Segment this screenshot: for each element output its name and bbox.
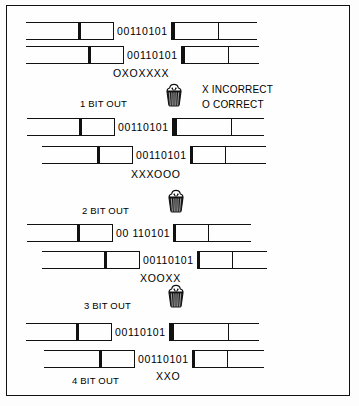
- pattern-text: OXOXXXX: [113, 67, 169, 79]
- pattern-text: XXO: [156, 370, 180, 382]
- row-right-cells: [169, 323, 229, 341]
- row-right-cells: [197, 251, 233, 269]
- row-right-tail: [226, 146, 266, 164]
- row-right-cells: [173, 224, 209, 242]
- register-cell: [90, 47, 91, 63]
- row-left-tail: [26, 22, 78, 40]
- row-code-text: 00110101: [114, 22, 171, 40]
- row-left-cells: [99, 350, 135, 368]
- row-code-text: 00110101: [115, 118, 172, 136]
- cupcake-icon: [163, 283, 189, 309]
- row-left-cells: [104, 251, 140, 269]
- row-right-tail: [219, 22, 257, 40]
- bit-row: 00 110101: [27, 224, 251, 242]
- register-cell: [80, 23, 81, 39]
- register-cell: [194, 351, 195, 367]
- pattern-text: XXXOOO: [131, 168, 181, 180]
- bit-row: 00110101: [42, 146, 266, 164]
- figure-canvas: 00110101 00110101 OXOXXXX X INCORRECT O …: [0, 0, 359, 406]
- row-code-text: 00 110101: [113, 224, 173, 242]
- cupcake-icon: [163, 188, 189, 214]
- row-code-text: 00110101: [112, 323, 169, 341]
- bit-out-label: 1 BIT OUT: [80, 98, 127, 109]
- bit-row: 00110101: [42, 251, 267, 269]
- legend-incorrect: X INCORRECT: [202, 84, 273, 95]
- row-right-tail: [232, 118, 264, 136]
- row-right-cells: [192, 350, 228, 368]
- bit-row: 00110101: [26, 46, 259, 64]
- row-right-tail: [229, 46, 259, 64]
- row-right-cells: [190, 146, 226, 164]
- register-cell: [99, 147, 100, 163]
- register-cell: [106, 252, 107, 268]
- row-left-cells: [76, 323, 112, 341]
- legend-correct: O CORRECT: [202, 99, 264, 110]
- row-right-tail: [228, 350, 264, 368]
- register-cell: [173, 324, 174, 340]
- row-right-cells: [172, 118, 232, 136]
- row-right-tail: [233, 251, 267, 269]
- row-code-text: 00110101: [133, 146, 190, 164]
- cupcake-icon: [161, 82, 187, 108]
- bit-row: 00110101: [44, 350, 264, 368]
- bit-out-label: 2 BIT OUT: [82, 205, 129, 216]
- row-code-text: 00110101: [135, 350, 192, 368]
- row-left-cells: [79, 118, 115, 136]
- register-cell: [78, 324, 79, 340]
- bit-row: 00110101: [26, 323, 259, 341]
- register-cell: [101, 351, 102, 367]
- row-left-tail: [26, 323, 76, 341]
- register-cell: [175, 225, 176, 241]
- row-code-text: 00110101: [140, 251, 197, 269]
- row-left-tail: [27, 224, 77, 242]
- register-cell: [81, 119, 82, 135]
- register-cell: [79, 225, 80, 241]
- bit-row: 00110101: [27, 118, 264, 136]
- bit-out-label: 3 BIT OUT: [84, 300, 131, 311]
- row-right-tail: [209, 224, 251, 242]
- row-code-text: 00110101: [124, 46, 181, 64]
- register-cell: [184, 47, 185, 63]
- row-left-cells: [88, 46, 124, 64]
- register-cell: [192, 147, 193, 163]
- register-cell: [199, 252, 200, 268]
- bit-row: 00110101: [26, 22, 257, 40]
- row-right-tail: [229, 323, 259, 341]
- row-right-cells: [171, 22, 219, 40]
- row-left-tail: [44, 350, 99, 368]
- row-left-tail: [42, 251, 104, 269]
- row-right-cells: [181, 46, 229, 64]
- register-cell: [176, 119, 177, 135]
- row-left-tail: [42, 146, 97, 164]
- register-cell: [174, 23, 175, 39]
- row-left-tail: [27, 118, 79, 136]
- row-left-cells: [78, 22, 114, 40]
- row-left-cells: [97, 146, 133, 164]
- row-left-cells: [77, 224, 113, 242]
- row-left-tail: [26, 46, 88, 64]
- bit-out-label: 4 BIT OUT: [72, 375, 119, 386]
